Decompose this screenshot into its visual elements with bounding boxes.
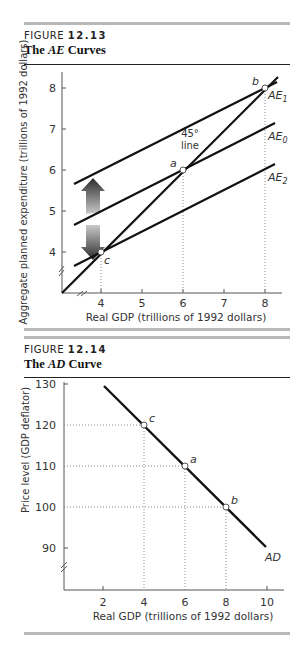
svg-text:130: 130 <box>35 378 56 391</box>
svg-text:10: 10 <box>260 596 274 609</box>
y-tick-labels: 130 120 110 100 90 <box>35 378 56 555</box>
svg-text:2: 2 <box>100 596 107 609</box>
svg-text:a: a <box>190 453 197 466</box>
svg-text:c: c <box>149 412 155 425</box>
point-a <box>182 463 188 469</box>
ad-chart: 130 120 110 100 90 2 4 6 8 10 Price leve… <box>0 0 303 649</box>
x-tick-labels: 2 4 6 8 10 <box>100 596 275 609</box>
svg-text:90: 90 <box>42 542 56 555</box>
svg-text:8: 8 <box>223 596 230 609</box>
y-axis-label: Price level (GDP deflator) <box>20 387 31 513</box>
point-b <box>223 504 229 510</box>
svg-text:120: 120 <box>35 419 56 432</box>
point-c <box>141 422 147 428</box>
svg-text:b: b <box>231 494 238 507</box>
ad-curve-label: AD <box>264 551 281 564</box>
x-axis-label: Real GDP (trillions of 1992 dollars) <box>93 610 274 622</box>
svg-text:6: 6 <box>182 596 189 609</box>
svg-text:100: 100 <box>35 501 56 514</box>
svg-text:110: 110 <box>35 460 56 473</box>
svg-text:4: 4 <box>141 596 148 609</box>
bottom-decor-bar <box>24 632 290 635</box>
